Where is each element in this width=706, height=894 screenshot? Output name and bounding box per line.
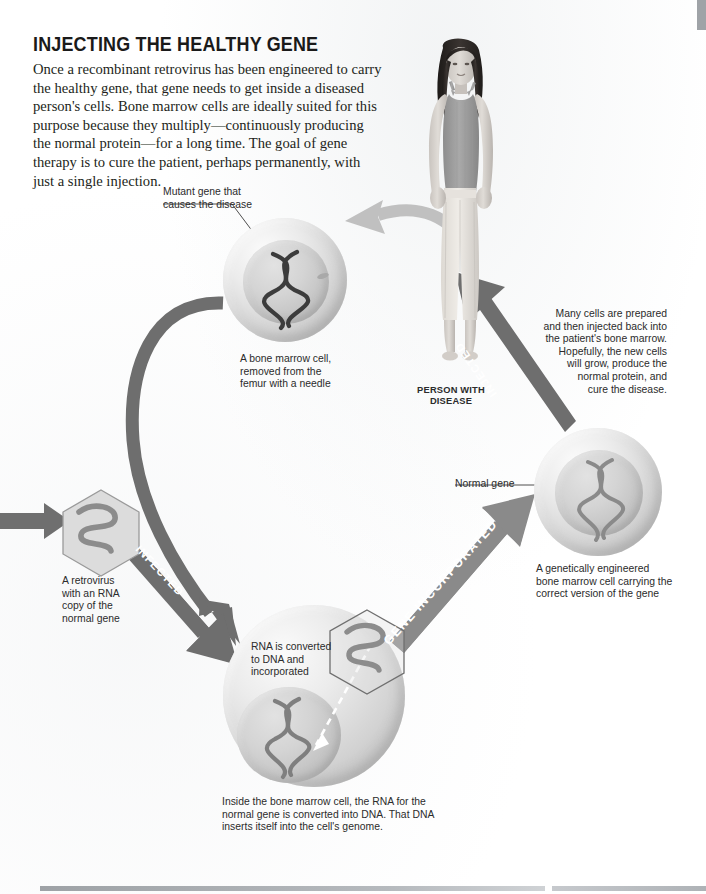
caption-rna-converted: RNA is converted to DNA and incorporated bbox=[251, 641, 369, 679]
dna-helix-mutant bbox=[223, 218, 347, 342]
illustration-page: INJECTING THE HEALTHY GENE Once a recomb… bbox=[0, 0, 706, 894]
caption-many-cells: Many cells are prepared and then injecte… bbox=[496, 308, 667, 396]
caption-normal-gene: Normal gene bbox=[455, 478, 555, 491]
cell-diseased-bone-marrow bbox=[223, 218, 347, 342]
caption-inside-cell: Inside the bone marrow cell, the RNA for… bbox=[222, 796, 472, 834]
caption-engineered-cell: A genetically engineered bone marrow cel… bbox=[536, 563, 696, 601]
dna-helix-normal bbox=[534, 428, 662, 556]
caption-retrovirus: A retrovirus with an RNA copy of the nor… bbox=[62, 575, 158, 625]
caption-bone-marrow-cell: A bone marrow cell, removed from the fem… bbox=[240, 353, 380, 391]
cell-engineered-bone-marrow bbox=[534, 428, 662, 556]
gene-incorporated-arrow bbox=[390, 494, 535, 653]
caption-mutant-gene: Mutant gene that causes the disease bbox=[163, 186, 293, 211]
caption-person-with-disease: PERSON WITH DISEASE bbox=[398, 385, 504, 408]
retrovirus-hexagon bbox=[60, 488, 142, 578]
